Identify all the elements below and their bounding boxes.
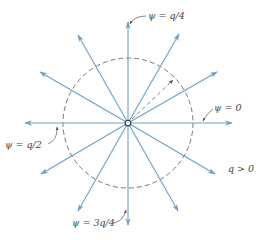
label-psi-q4: ψ = q/4 bbox=[148, 10, 185, 21]
leader-q2 bbox=[48, 127, 57, 144]
streamline-150 bbox=[40, 72, 128, 123]
streamline-240 bbox=[78, 123, 128, 211]
leader-q4 bbox=[130, 16, 146, 24]
streamline-210 bbox=[41, 123, 128, 174]
streamline-120 bbox=[78, 35, 128, 123]
leader-3q4 bbox=[113, 210, 126, 223]
label-q-positive: q > 0 bbox=[228, 163, 254, 174]
radius-indicator bbox=[132, 80, 173, 119]
label-psi-0: ψ = 0 bbox=[214, 102, 242, 113]
source-flow-diagram: ψ = q/4 ψ = 0 ψ = q/2 ψ = 3q/4 q > 0 bbox=[0, 0, 266, 240]
label-psi-q2: ψ = q/2 bbox=[5, 139, 42, 150]
streamline-330 bbox=[128, 123, 215, 174]
leader-0 bbox=[203, 109, 213, 121]
streamline-300 bbox=[128, 123, 178, 211]
streamline-60 bbox=[128, 34, 179, 123]
streamline-30 bbox=[128, 72, 217, 123]
source-point bbox=[125, 120, 131, 126]
label-psi-3q4: ψ = 3q/4 bbox=[72, 217, 115, 228]
